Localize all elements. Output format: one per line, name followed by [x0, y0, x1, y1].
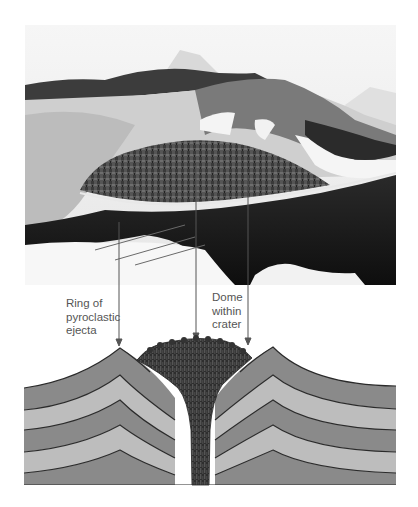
- arrowhead-icon: [245, 338, 251, 345]
- volcano-cross-section: [0, 0, 418, 507]
- arrowhead-icon: [116, 339, 122, 346]
- arrow-lines: [116, 165, 251, 346]
